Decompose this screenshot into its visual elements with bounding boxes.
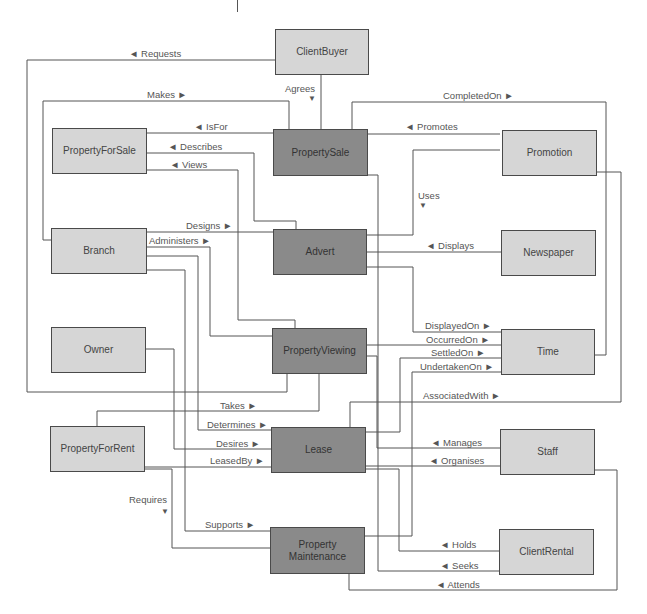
rel-requires-arrow: ▼ [161,506,169,517]
rel-determines: Determines ► [207,419,268,430]
rel-takes: Takes ► [220,400,257,411]
entity-label: Owner [84,344,113,356]
entity-label: Property Maintenance [283,539,353,563]
rel-desires: Desires ► [216,438,260,449]
rel-agrees-arrow: ▼ [308,93,316,104]
entity-client-buyer[interactable]: ClientBuyer [275,29,369,75]
entity-property-for-rent[interactable]: PropertyForRent [50,426,145,472]
rel-supports: Supports ► [205,519,255,530]
entity-label: Promotion [527,147,573,159]
rel-completed-on: CompletedOn ► [443,90,514,101]
er-diagram: ClientBuyer PropertyForSale PropertySale… [0,0,647,614]
entity-property-viewing[interactable]: PropertyViewing [272,328,367,374]
rel-leased-by: LeasedBy ► [210,455,264,466]
rel-settled-on: SettledOn ► [431,347,485,358]
entity-promotion[interactable]: Promotion [502,130,597,176]
rel-administers: Administers ► [149,235,211,246]
entity-branch[interactable]: Branch [51,228,147,274]
rel-undertaken-on: UndertakenOn ► [420,361,494,372]
entity-time[interactable]: Time [501,329,595,375]
rel-requests: ◄ Requests [129,48,181,59]
entity-property-for-sale[interactable]: PropertyForSale [52,128,147,174]
entity-property-maintenance[interactable]: Property Maintenance [270,527,365,574]
entity-property-sale[interactable]: PropertySale [273,129,368,176]
entity-newspaper[interactable]: Newspaper [501,230,596,276]
rel-associated-with: AssociatedWith ► [423,390,501,401]
entity-label: Staff [537,446,557,458]
entity-label: Branch [83,245,115,257]
entity-label: ClientRental [519,546,573,558]
rel-occurred-on: OccurredOn ► [426,334,490,345]
rel-requires: Requires [129,494,167,505]
entity-lease[interactable]: Lease [271,427,366,473]
rel-organises: ◄ Organises [429,455,484,466]
entity-label: Advert [306,246,335,258]
rel-displays: ◄ Displays [426,240,474,251]
entity-client-rental[interactable]: ClientRental [499,529,594,575]
entity-label: PropertySale [292,147,350,159]
connector-lines [0,0,647,614]
rel-uses-arrow: ▼ [419,200,427,211]
entity-owner[interactable]: Owner [51,327,146,373]
entity-label: PropertyViewing [283,345,356,357]
rel-describes: ◄ Describes [168,141,222,152]
entity-label: PropertyForRent [61,443,135,455]
rel-is-for: ◄ IsFor [194,121,228,132]
entity-staff[interactable]: Staff [500,429,595,475]
rel-designs: Designs ► [186,220,232,231]
rel-views: ◄ Views [170,159,207,170]
rel-makes: Makes ► [147,89,187,100]
entity-label: Lease [305,444,332,456]
rel-holds: ◄ Holds [440,539,476,550]
rel-displayed-on: DisplayedOn ► [425,320,491,331]
rel-promotes: ◄ Promotes [405,121,458,132]
entity-advert[interactable]: Advert [273,229,367,275]
entity-label: ClientBuyer [296,46,348,58]
entity-label: PropertyForSale [63,145,136,157]
rel-attends: ◄ Attends [436,579,480,590]
rel-manages: ◄ Manages [431,437,482,448]
rel-seeks: ◄ Seeks [440,560,478,571]
entity-label: Newspaper [523,247,574,259]
entity-label: Time [537,346,559,358]
